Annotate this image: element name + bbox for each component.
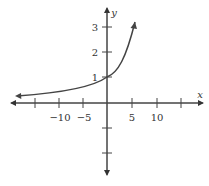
x-tick-label-neg10: −10 [49, 112, 70, 123]
curve-arrow-left [15, 93, 21, 99]
curve-arrow-right [131, 22, 138, 29]
x-tick-label-neg5: −5 [77, 112, 92, 123]
y-tick-label-2: 2 [92, 47, 98, 58]
exponential-curve [17, 22, 135, 96]
y-tick-label-1: 1 [92, 72, 98, 83]
x-tick-label-10: 10 [151, 112, 164, 123]
exponential-graph: −10 −5 5 10 3 2 1 x y [0, 0, 209, 186]
y-tick-label-3: 3 [92, 22, 98, 33]
x-tick-label-5: 5 [129, 112, 135, 123]
x-axis-label: x [197, 89, 203, 100]
y-axis-label: y [110, 7, 117, 18]
